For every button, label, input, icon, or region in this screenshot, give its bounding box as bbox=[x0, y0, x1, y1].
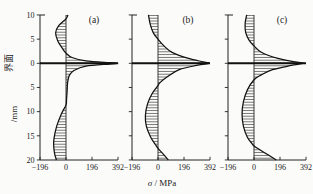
panels-group: −196019639210505101520−1960196392−196019… bbox=[27, 11, 313, 172]
stress-distribution-chart: −196019639210505101520−1960196392−196019… bbox=[0, 0, 313, 194]
x-tick-label: −196 bbox=[124, 163, 141, 172]
axis-frame bbox=[228, 15, 306, 160]
x-tick-label: 0 bbox=[252, 163, 256, 172]
panel-label-c: (c) bbox=[277, 15, 288, 26]
x-tick-label: 196 bbox=[86, 163, 98, 172]
x-tick-label: 392 bbox=[112, 163, 124, 172]
panel-c: −1960196392 bbox=[220, 15, 312, 172]
x-tick-label: 392 bbox=[204, 163, 216, 172]
x-axis-label-unit: / MPa bbox=[152, 178, 176, 188]
stress-profile-hatch-fill bbox=[242, 15, 303, 160]
y-tick-label: 10 bbox=[27, 107, 35, 116]
axis-frame bbox=[132, 15, 210, 160]
x-tick-label: 392 bbox=[300, 163, 312, 172]
x-tick-label: 0 bbox=[156, 163, 160, 172]
stress-profile-hatch-fill bbox=[54, 15, 118, 160]
x-axis-label: σ / MPa bbox=[148, 178, 176, 188]
x-tick-label: −196 bbox=[220, 163, 237, 172]
x-tick-label: 196 bbox=[178, 163, 190, 172]
y-tick-label: 0 bbox=[31, 59, 35, 68]
panel-label-b: (b) bbox=[182, 15, 193, 26]
y-axis-unit-label: /mm bbox=[9, 106, 19, 123]
axis-frame bbox=[40, 15, 118, 160]
panel-label-a: (a) bbox=[89, 15, 100, 26]
y-tick-label: 10 bbox=[27, 11, 35, 20]
figure-canvas: −196019639210505101520−1960196392−196019… bbox=[0, 0, 313, 194]
panel-a: −196019639210505101520 bbox=[27, 11, 125, 172]
stress-profile-hatch-fill bbox=[145, 15, 209, 160]
y-tick-label: 20 bbox=[27, 156, 35, 165]
y-axis-label-interface: 界面 bbox=[4, 54, 14, 72]
x-tick-label: 0 bbox=[64, 163, 68, 172]
y-tick-label: 15 bbox=[27, 132, 35, 141]
panel-b: −1960196392 bbox=[124, 15, 216, 172]
y-tick-label: 5 bbox=[31, 83, 35, 92]
y-tick-label: 5 bbox=[31, 35, 35, 44]
x-tick-label: 196 bbox=[274, 163, 286, 172]
